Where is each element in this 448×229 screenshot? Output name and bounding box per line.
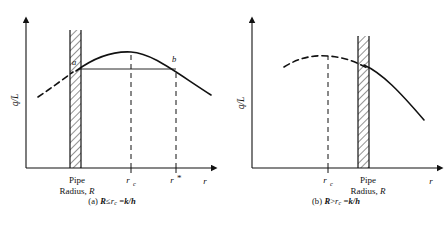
x-axis-label: r [203,176,207,186]
curve-solid-heat-loss [364,65,424,120]
pipe-wall-hatch [358,36,369,168]
point-b-label: b [172,54,176,64]
caption-a-rhs: k/h [124,196,136,206]
pipe-wall-hatch [70,30,81,168]
caption-b: (b) R>rc =k/h [224,196,448,206]
caption-a-rc-sub: c [114,200,117,206]
caption-b-rhs: k/h [348,196,360,206]
pipe-radius-label-line1: Pipe [360,175,376,185]
pipe-radius-label-line2: Radius, R [350,186,386,196]
pipe-radius-label-line1: Pipe [69,175,85,185]
point-a-label: a [72,57,76,67]
rc-label-sub: c [330,180,333,187]
curve-solid-heat-loss [76,52,211,95]
y-axis-label: q/L [236,97,246,110]
figure-critical-insulation-radius: a b q/L r Pipe Radius, R r c r * (a) R≤r… [0,0,448,229]
rc-label: r [323,175,327,185]
caption-b-rc-sub: c [338,200,341,206]
r-star-label-sup: * [177,173,182,183]
curve-dashed-inside-pipe [38,72,73,97]
curve-dashed-virtual [284,56,367,68]
panel-b-plot: q/L r r c Pipe Radius, R [224,0,448,196]
r-star-label: r [170,175,174,185]
pipe-radius-label-line2: Radius, R [59,186,95,196]
rc-label: r [126,175,130,185]
caption-a-prefix: (a) [88,196,98,206]
panel-b: q/L r r c Pipe Radius, R (b) R>rc =k/h [224,0,448,229]
caption-b-prefix: (b) [312,196,322,206]
panel-a-plot: a b q/L r Pipe Radius, R r c r * [0,0,224,196]
panel-a: a b q/L r Pipe Radius, R r c r * (a) R≤r… [0,0,224,229]
x-axis-label: r [429,176,433,186]
rc-label-sub: c [133,180,136,187]
caption-a: (a) R≤rc =k/h [0,196,224,206]
y-axis-label: q/L [10,94,20,107]
